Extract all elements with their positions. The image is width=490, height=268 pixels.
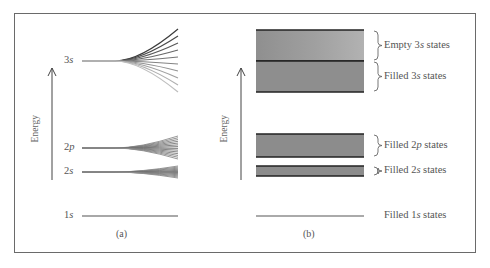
band-label-2s-filled: Filled 2s states <box>384 165 446 176</box>
level-label-1s: 1s <box>64 210 73 221</box>
orbital-letter: s <box>69 165 73 176</box>
band-label-suffix: states <box>420 70 446 81</box>
band-label-suffix: states <box>424 39 450 50</box>
brace-3s-filled <box>374 62 382 91</box>
caption-b: (b) <box>303 229 315 239</box>
brace-2p-filled <box>374 135 382 156</box>
caption-a: (a) <box>116 229 127 239</box>
band-2s-filled <box>256 166 364 176</box>
energy-axis-label-a: Energy <box>31 115 41 142</box>
band-braces <box>374 31 382 175</box>
band-label-3s-empty: Empty 3s states <box>384 40 450 51</box>
energy-arrow-a <box>48 68 56 180</box>
band-label-2p-filled: Filled 2p states <box>384 140 448 151</box>
band-label-1s-filled: Filled 1s states <box>384 210 446 221</box>
level-label-2s: 2s <box>64 166 73 177</box>
band-label-prefix: Empty 3 <box>384 39 420 50</box>
level-label-3s: 3s <box>64 55 73 66</box>
brace-2s-filled <box>374 167 382 175</box>
band-label-suffix: states <box>422 139 448 150</box>
energy-level-fans <box>82 29 178 216</box>
energy-bands <box>256 30 364 216</box>
band-3s-filled <box>256 61 364 92</box>
band-label-prefix: Filled 3 <box>384 70 416 81</box>
band-label-prefix: Filled 2 <box>384 139 416 150</box>
orbital-letter: s <box>69 209 73 220</box>
level-fan-2s <box>82 166 178 178</box>
level-label-2p: 2p <box>64 142 75 153</box>
level-fan-2p <box>82 136 178 159</box>
energy-arrow-b <box>237 68 245 180</box>
band-label-3s-filled: Filled 3s states <box>384 71 446 82</box>
energy-axis-label-b: Energy <box>220 115 230 142</box>
orbital-letter: p <box>69 141 74 152</box>
band-label-suffix: states <box>420 164 446 175</box>
band-label-suffix: states <box>420 209 446 220</box>
level-fan-3s <box>82 29 178 92</box>
band-label-prefix: Filled 1 <box>384 209 416 220</box>
band-label-prefix: Filled 2 <box>384 164 416 175</box>
orbital-letter: s <box>69 54 73 65</box>
brace-3s-empty <box>374 31 382 60</box>
band-2p-filled <box>256 134 364 157</box>
band-3s-empty <box>256 30 364 61</box>
